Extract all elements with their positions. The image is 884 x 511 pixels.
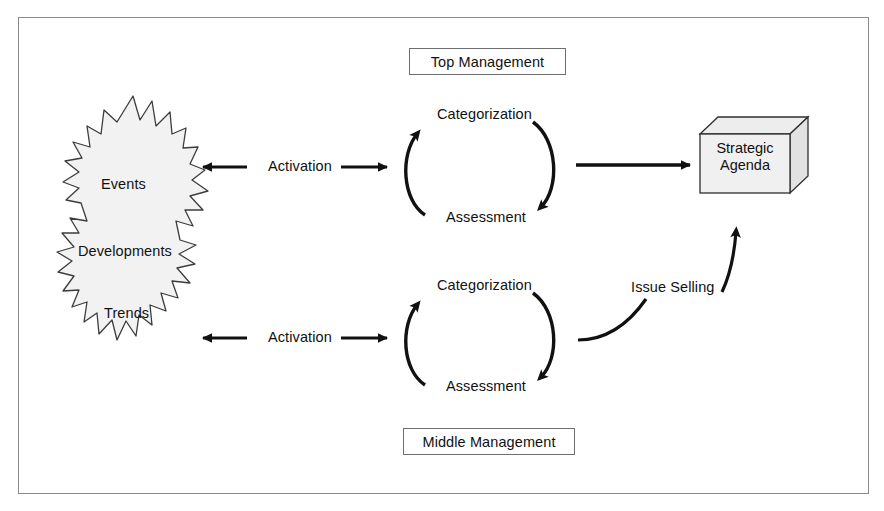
middle-management-box[interactable]: Middle Management [403, 428, 575, 455]
cycle-top-categorization-label: Categorization [437, 106, 532, 122]
burst-label-events: Events [101, 176, 146, 192]
activation-label-bottom: Activation [268, 329, 332, 345]
cycle-bottom-assessment-label: Assessment [446, 378, 526, 394]
cycle-arc-bottom [406, 293, 554, 385]
burst-label-trends: Trends [104, 305, 149, 321]
strategic-agenda-line-2: Agenda [701, 157, 789, 174]
environment-burst-shape [57, 96, 208, 340]
cycle-top-assessment-label: Assessment [446, 209, 526, 225]
strategic-agenda-line-1: Strategic [701, 140, 789, 157]
figure-caption [20, 502, 864, 511]
figure-root: Top Management Middle Management Events … [0, 0, 884, 511]
burst-label-developments: Developments [78, 243, 172, 259]
activation-label-top: Activation [268, 158, 332, 174]
cycle-arc-top [406, 122, 554, 215]
strategic-agenda-label: Strategic Agenda [701, 140, 789, 174]
cycle-bottom-categorization-label: Categorization [437, 277, 532, 293]
issue-selling-label: Issue Selling [631, 279, 715, 295]
top-management-box[interactable]: Top Management [409, 48, 566, 75]
